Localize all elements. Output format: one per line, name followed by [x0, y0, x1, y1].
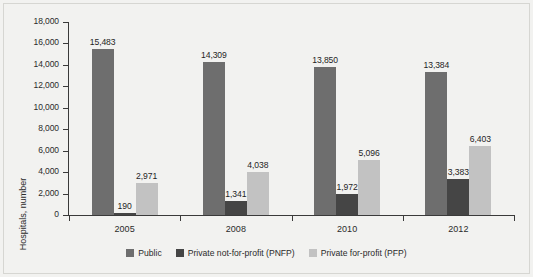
y-tick-mark	[63, 86, 68, 87]
bar[interactable]: 13,850	[314, 67, 336, 216]
y-tick: 12,000	[63, 86, 68, 87]
y-tick: 10,000	[63, 108, 68, 109]
bar-value-label: 14,309	[201, 50, 227, 60]
y-tick-mark	[63, 151, 68, 152]
bar-group: 13,3843,3836,403	[425, 22, 491, 215]
y-tick-mark	[63, 65, 68, 66]
bar-value-label: 3,383	[448, 167, 469, 177]
y-tick: 18,000	[63, 22, 68, 23]
bar[interactable]: 14,309	[203, 62, 225, 215]
y-tick-label: 18,000	[34, 16, 59, 26]
y-tick-mark	[63, 172, 68, 173]
bar[interactable]: 190	[114, 213, 136, 215]
bar[interactable]: 2,971	[136, 183, 158, 215]
y-tick-label: 12,000	[34, 80, 59, 90]
x-tick-label: 2012	[448, 224, 468, 234]
legend-item[interactable]: Private for-profit (PFP)	[309, 248, 407, 258]
bar-group: 15,4831902,971	[92, 22, 158, 215]
legend-label: Private for-profit (PFP)	[321, 248, 407, 258]
legend-label: Public	[138, 248, 161, 258]
y-tick-label: 16,000	[34, 37, 59, 47]
y-tick-label: 10,000	[34, 102, 59, 112]
bar-chart: Hospitals, number 02,0004,0006,0008,0001…	[0, 0, 533, 277]
y-tick: 6,000	[63, 151, 68, 152]
y-tick: 2,000	[63, 194, 68, 195]
y-tick-mark	[63, 215, 68, 216]
legend-swatch-icon	[309, 249, 317, 257]
x-tick-mark	[292, 215, 293, 221]
y-tick-mark	[63, 108, 68, 109]
y-tick: 16,000	[63, 43, 68, 44]
bar[interactable]: 1,972	[336, 194, 358, 215]
bar[interactable]: 5,096	[358, 160, 380, 215]
x-tick-mark	[514, 215, 515, 221]
bar-value-label: 15,483	[90, 37, 116, 47]
bar-group: 13,8501,9725,096	[314, 22, 380, 215]
y-axis-title: Hospitals, number	[18, 178, 28, 251]
bar[interactable]: 3,383	[447, 179, 469, 215]
bar-value-label: 1,972	[337, 182, 358, 192]
bar[interactable]: 6,403	[469, 146, 491, 215]
bar[interactable]: 1,341	[225, 201, 247, 215]
legend-item[interactable]: Private not-for-profit (PNFP)	[176, 248, 295, 258]
y-tick: 14,000	[63, 65, 68, 66]
bar[interactable]: 13,384	[425, 72, 447, 216]
bar-value-label: 4,038	[247, 160, 268, 170]
bar[interactable]: 15,483	[92, 49, 114, 215]
bar-value-label: 2,971	[136, 171, 157, 181]
bar-value-label: 5,096	[359, 148, 380, 158]
y-tick-label: 0	[54, 209, 59, 219]
y-tick-mark	[63, 22, 68, 23]
x-tick-mark	[180, 215, 181, 221]
legend-swatch-icon	[126, 249, 134, 257]
chart-legend: PublicPrivate not-for-profit (PNFP)Priva…	[0, 248, 533, 258]
bar-group: 14,3091,3414,038	[203, 22, 269, 215]
y-tick-label: 2,000	[38, 188, 59, 198]
legend-label: Private not-for-profit (PNFP)	[188, 248, 295, 258]
plot-area: 15,4831902,97114,3091,3414,03813,8501,97…	[69, 22, 514, 215]
y-tick-label: 4,000	[38, 166, 59, 176]
y-tick: 4,000	[63, 172, 68, 173]
bar-value-label: 13,384	[424, 60, 450, 70]
y-tick-mark	[63, 194, 68, 195]
bar-value-label: 6,403	[470, 134, 491, 144]
y-tick: 0	[63, 215, 68, 216]
y-tick-label: 6,000	[38, 145, 59, 155]
x-tick-mark	[69, 215, 70, 221]
bar-value-label: 190	[118, 201, 132, 211]
x-tick-mark	[403, 215, 404, 221]
legend-swatch-icon	[176, 249, 184, 257]
bar[interactable]: 4,038	[247, 172, 269, 215]
y-tick-mark	[63, 129, 68, 130]
bar-value-label: 1,341	[225, 189, 246, 199]
y-tick-mark	[63, 43, 68, 44]
y-tick: 8,000	[63, 129, 68, 130]
x-tick-label: 2005	[115, 224, 135, 234]
x-tick-label: 2008	[226, 224, 246, 234]
y-tick-label: 8,000	[38, 123, 59, 133]
x-tick-label: 2010	[337, 224, 357, 234]
y-tick-label: 14,000	[34, 59, 59, 69]
legend-item[interactable]: Public	[126, 248, 161, 258]
bar-value-label: 13,850	[312, 55, 338, 65]
